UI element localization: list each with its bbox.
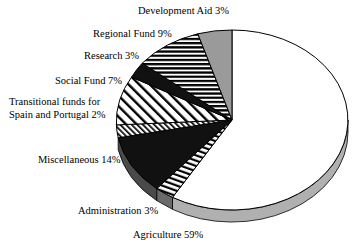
label-development-aid: Development Aid 3% [138, 5, 229, 16]
label-administration: Administration 3% [78, 205, 158, 216]
label-agriculture: Agriculture 59% [133, 229, 204, 240]
label-miscellaneous: Miscellaneous 14% [38, 154, 121, 165]
label-social-fund: Social Fund 7% [55, 75, 122, 86]
label-transitional-funds-line2: Spain and Portugal 2% [9, 109, 106, 120]
label-research: Research 3% [84, 50, 139, 61]
pie-top-face [116, 30, 348, 210]
label-regional-fund: Regional Fund 9% [93, 28, 172, 39]
pie-chart-figure: Development Aid 3% Regional Fund 9% Rese… [0, 0, 356, 245]
pie-chart-svg: Development Aid 3% Regional Fund 9% Rese… [0, 0, 356, 245]
label-transitional-funds-line1: Transitional funds for [9, 96, 101, 107]
